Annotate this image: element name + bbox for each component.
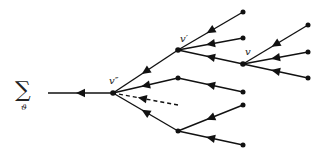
sum-symbol: ∑ — [15, 77, 31, 102]
arrowhead-icon — [138, 95, 148, 103]
node-label-v: v — [245, 46, 251, 57]
sum-subscript: ϑ — [21, 103, 27, 112]
node-m2 — [176, 129, 181, 134]
node-l4 — [306, 50, 311, 55]
arrowhead-icon — [272, 39, 282, 47]
node-l7 — [241, 103, 246, 108]
arrowhead-icon — [142, 66, 152, 74]
node-l6 — [241, 90, 246, 95]
node-label-v2: v″ — [109, 75, 119, 86]
tree-diagram: v″v′v ∑ ϑ — [0, 0, 328, 153]
node-l1 — [241, 10, 246, 15]
arrowhead-icon — [271, 53, 281, 61]
arrowhead-icon — [206, 39, 216, 47]
arrowhead-icon — [206, 135, 216, 143]
node-l3 — [306, 23, 311, 28]
arrowhead-icon — [76, 89, 85, 97]
node-l2 — [241, 36, 246, 41]
node-l8 — [241, 143, 246, 148]
node-v1 — [175, 47, 181, 53]
node-l5 — [306, 76, 311, 81]
arrowhead-icon — [206, 54, 216, 62]
node-label-v1: v′ — [180, 33, 189, 44]
arrowhead-icon — [207, 25, 217, 33]
arrowhead-icon — [206, 82, 216, 90]
arrowhead-icon — [141, 80, 151, 88]
node-v — [240, 61, 246, 67]
node-v2 — [110, 90, 116, 96]
arrowhead-icon — [142, 110, 152, 118]
node-m1 — [176, 76, 181, 81]
arrowhead-icon — [271, 68, 281, 76]
